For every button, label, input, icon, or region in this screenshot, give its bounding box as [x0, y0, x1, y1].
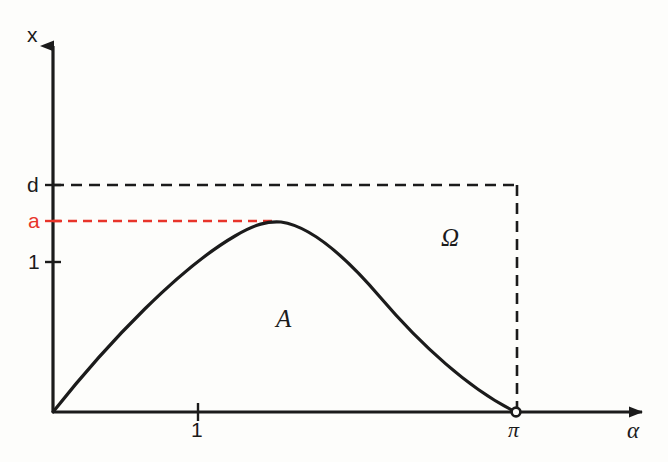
open-circle-marker-at-pi — [512, 408, 521, 417]
region-label-a: A — [276, 306, 291, 331]
y-tick-label-d: d — [27, 174, 39, 195]
x-tick-label-pi: π — [508, 419, 519, 441]
y-axis-label: x — [27, 24, 38, 45]
region-label-omega: Ω — [441, 225, 459, 250]
y-tick-label-one: 1 — [28, 251, 40, 272]
y-tick-label-a: a — [28, 210, 40, 231]
x-axis-label: α — [627, 419, 639, 442]
figure-graphics — [0, 0, 668, 462]
x-tick-label-one: 1 — [191, 419, 203, 440]
figure-canvas: x d a 1 1 π α A Ω — [0, 0, 668, 462]
